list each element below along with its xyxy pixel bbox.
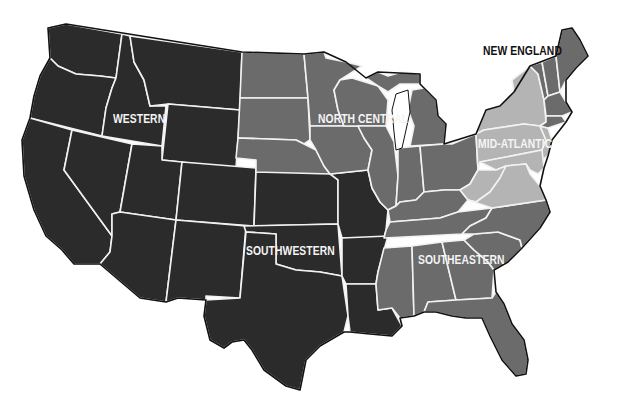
state-new-york[interactable] <box>476 66 546 134</box>
state-florida[interactable] <box>424 292 528 376</box>
map-canvas <box>0 0 618 408</box>
label-southwestern: SOUTHWESTERN <box>246 245 335 257</box>
us-regions-map: WESTERN NORTH CENTRAL NEW ENGLAND MID-AT… <box>0 0 618 408</box>
state-new-mexico[interactable] <box>166 220 246 302</box>
label-mid-atlantic: MID-ATLANTIC <box>478 138 552 150</box>
label-north-central: NORTH CENTRAL <box>318 113 408 125</box>
state-north-dakota[interactable] <box>240 52 308 98</box>
state-arizona[interactable] <box>100 212 176 302</box>
state-colorado[interactable] <box>176 162 256 226</box>
state-wyoming[interactable] <box>162 104 240 168</box>
region-western[interactable] <box>22 24 256 302</box>
label-southeastern: SOUTHEASTERN <box>418 254 504 266</box>
state-mississippi[interactable] <box>376 246 414 318</box>
label-western: WESTERN <box>113 113 165 125</box>
label-new-england: NEW ENGLAND <box>483 45 562 57</box>
state-south-dakota[interactable] <box>238 98 310 144</box>
region-southeastern[interactable] <box>376 200 550 376</box>
state-michigan-lower[interactable] <box>408 88 446 146</box>
state-kansas[interactable] <box>254 172 338 226</box>
